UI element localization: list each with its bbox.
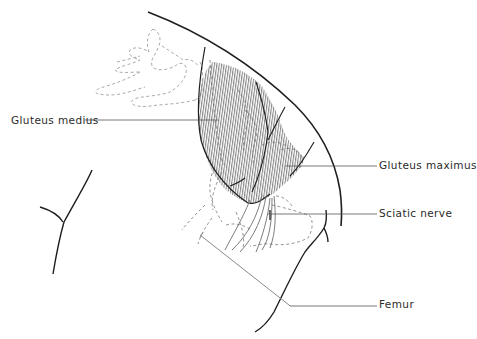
label-gluteus-medius: Gluteus medius [11, 114, 99, 126]
pelvis-dashed-outline [96, 29, 203, 107]
thigh-contour-right [255, 210, 328, 332]
label-gluteus-maximus: Gluteus maximus [379, 159, 477, 171]
leader-femur [289, 305, 377, 306]
left-contour [40, 170, 92, 274]
label-sciatic-nerve: Sciatic nerve [379, 207, 452, 219]
gluteus-medius-shaded-region [198, 62, 305, 204]
femur-line [200, 235, 289, 305]
label-femur: Femur [379, 298, 414, 310]
